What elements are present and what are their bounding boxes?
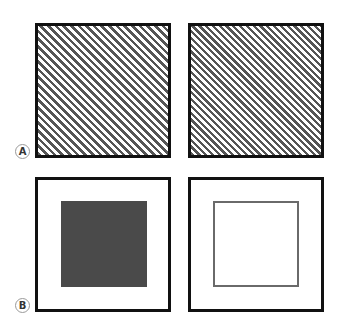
panel-b-outlined-inner-square	[213, 201, 299, 287]
panel-a-left-striped-square	[35, 23, 171, 158]
panel-label-b: B	[15, 298, 30, 313]
panel-a-right-striped-square	[188, 23, 324, 158]
panel-label-a-text: A	[19, 147, 27, 157]
panel-label-b-text: B	[19, 301, 27, 311]
panel-b-filled-inner-square	[61, 201, 147, 287]
panel-label-a: A	[15, 144, 30, 159]
